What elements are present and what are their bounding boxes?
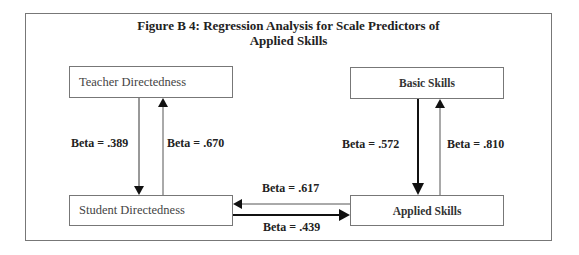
arrows-layer: [0, 0, 579, 255]
label-student-to-teacher: Beta = .670: [167, 136, 224, 151]
label-student-to-applied: Beta = .439: [263, 220, 320, 235]
label-basic-to-applied: Beta = .572: [342, 137, 399, 152]
label-applied-to-basic: Beta = .810: [447, 137, 504, 152]
label-applied-to-student: Beta = .617: [262, 181, 319, 196]
arrow-teacher-to-student: [134, 98, 144, 195]
arrow-applied-to-basic: [435, 99, 445, 195]
arrow-applied-to-student: [233, 199, 350, 209]
arrow-basic-to-applied: [412, 99, 424, 195]
label-teacher-to-student: Beta = .389: [71, 136, 128, 151]
